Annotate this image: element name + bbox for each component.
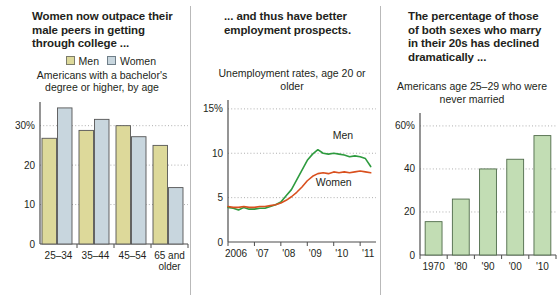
chart-marriage-svg: 0204060%1970'80'90'00'10 (388, 107, 558, 289)
chart-education-svg: 0102030%25–3435–4445–5465 andolder (6, 96, 190, 278)
axis-tick-label: 35–44 (82, 250, 110, 261)
legend-label-women: Women (120, 55, 156, 67)
bar-never-married (452, 199, 469, 255)
axis-tick-label: 10 (212, 148, 224, 159)
axis-tick-label: '90 (481, 261, 494, 272)
bar-men (42, 138, 57, 244)
axis-tick-label: 0 (409, 250, 415, 261)
chart-unemployment: 051015%2006'07'08'09'10'11MenWomen (196, 94, 374, 276)
panel-3-subtitle: Americans age 25–29 who were never marri… (388, 80, 550, 105)
axis-tick-label: 30% (15, 120, 35, 131)
panel-1-headline: Women now outpace their male peers in ge… (6, 10, 182, 51)
axis-tick-label: 0 (29, 238, 35, 249)
axis-tick-label: 45–54 (119, 250, 147, 261)
bar-men (116, 125, 131, 243)
panel-1-subtitle: Americans with a bachelor's degree or hi… (6, 69, 182, 94)
panel-marriage: The percentage of those of both sexes wh… (380, 0, 556, 299)
bar-never-married (425, 222, 442, 255)
axis-tick-label: older (158, 261, 181, 272)
series-annotation: Women (316, 176, 352, 188)
panel-education: Women now outpace their male peers in ge… (0, 0, 190, 299)
bar-men (153, 145, 168, 244)
axis-tick-label: '10 (335, 248, 348, 259)
legend-swatch-men-icon (66, 56, 75, 65)
axis-tick-label: 0 (217, 237, 223, 248)
axis-tick-label: 40 (404, 163, 416, 174)
panel-2-headline: ... and thus have better employment pros… (196, 10, 374, 37)
axis-tick-label: '80 (454, 261, 467, 272)
axis-tick-label: 25–34 (45, 250, 73, 261)
bar-men (79, 130, 94, 244)
bar-never-married (507, 159, 524, 255)
bar-never-married (480, 169, 497, 255)
axis-tick-label: 20 (404, 206, 416, 217)
bar-women (58, 107, 73, 243)
axis-tick-label: '08 (282, 248, 295, 259)
axis-tick-label: 15% (203, 103, 223, 114)
axis-tick-label: 20 (24, 159, 36, 170)
bar-women (132, 136, 147, 243)
chart-education: 0102030%25–3435–4445–5465 andolder (6, 96, 182, 278)
series-annotation: Men (333, 129, 354, 141)
chart-marriage: 0204060%1970'80'90'00'10 (388, 107, 550, 289)
axis-tick-label: 60% (395, 120, 415, 131)
axis-tick-label: 1970 (422, 261, 445, 272)
axis-tick-label: '09 (309, 248, 322, 259)
legend-label-men: Men (79, 55, 99, 67)
panel-3-headline: The percentage of those of both sexes wh… (388, 10, 550, 64)
axis-tick-label: 65 and (154, 250, 185, 261)
bar-women (169, 187, 184, 243)
legend-education: Men Women (6, 55, 182, 67)
axis-tick-label: 5 (217, 192, 223, 203)
chart-unemployment-svg: 051015%2006'07'08'09'10'11MenWomen (196, 94, 380, 276)
axis-tick-label: '07 (256, 248, 269, 259)
legend-item-men: Men (66, 55, 99, 67)
bar-women (95, 119, 110, 244)
axis-tick-label: '00 (509, 261, 522, 272)
axis-tick-label: '10 (536, 261, 549, 272)
axis-tick-label: 10 (24, 199, 36, 210)
legend-swatch-women-icon (107, 56, 116, 65)
axis-tick-label: 2006 (225, 248, 248, 259)
panel-unemployment: ... and thus have better employment pros… (190, 0, 380, 299)
bar-never-married (534, 136, 551, 255)
axis-tick-label: '11 (362, 248, 375, 259)
panel-2-subtitle: Unemployment rates, age 20 or older (196, 67, 374, 92)
legend-item-women: Women (107, 55, 156, 67)
